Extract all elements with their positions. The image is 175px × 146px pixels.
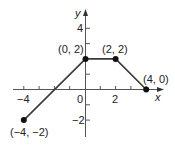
y-axis-label: y [74, 7, 82, 19]
y-tick-label-4: 4 [77, 22, 83, 34]
point-2-2 [113, 56, 119, 62]
point-label-0-2: (0, 2) [58, 43, 84, 55]
graph: y x 4 −2 −4 0 2 (0, 2) (2, 2) (4, 0) (−4… [0, 0, 175, 146]
x-tick-label-2: 2 [112, 93, 118, 105]
y-axis-arrow-icon [83, 9, 88, 16]
point-4-0 [143, 87, 149, 93]
point-0-2 [83, 56, 89, 62]
x-tick-label-neg4: −4 [17, 93, 30, 105]
x-tick-label-0: 0 [77, 93, 83, 105]
x-axis-label: x [154, 91, 161, 103]
point-label-neg4-neg2: (−4, −2) [10, 126, 49, 138]
point-label-4-0: (4, 0) [143, 73, 169, 85]
y-tick-label-neg2: −2 [72, 114, 85, 126]
x-axis [13, 86, 164, 92]
point-label-2-2: (2, 2) [102, 43, 128, 55]
point-neg4-neg2 [21, 117, 27, 123]
